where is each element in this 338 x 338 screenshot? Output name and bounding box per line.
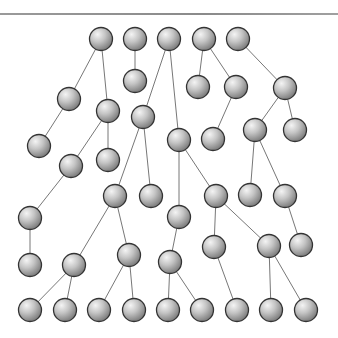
tree-node-20	[104, 185, 127, 208]
tree-node-8	[97, 100, 120, 123]
tree-node-6	[124, 70, 147, 93]
tree-node-40	[226, 299, 249, 322]
tree-node-38	[157, 299, 180, 322]
tree-node-30	[19, 254, 42, 277]
tree-node-16	[202, 128, 225, 151]
tree-node-27	[203, 236, 226, 259]
tree-node-24	[274, 185, 297, 208]
tree-node-5	[227, 28, 250, 51]
tree-node-26	[168, 206, 191, 229]
tree-node-37	[123, 299, 146, 322]
tree-node-17	[244, 119, 267, 142]
tree-node-12	[274, 77, 297, 100]
tree-node-31	[63, 254, 86, 277]
tree-node-22	[205, 185, 228, 208]
tree-node-1	[90, 28, 113, 51]
tree-node-4	[193, 28, 216, 51]
tree-node-15	[168, 129, 191, 152]
edge-3-9	[143, 39, 169, 117]
tree-node-33	[159, 251, 182, 274]
tree-node-39	[191, 299, 214, 322]
tree-node-13	[28, 135, 51, 158]
tree-node-34	[19, 299, 42, 322]
tree-node-21	[140, 185, 163, 208]
tree-node-35	[54, 299, 77, 322]
tree-node-42	[295, 299, 318, 322]
tree-node-11	[225, 76, 248, 99]
tree-node-3	[158, 28, 181, 51]
tree-node-18	[284, 119, 307, 142]
tree-node-41	[260, 299, 283, 322]
tree-node-36	[88, 299, 111, 322]
tree-node-9	[132, 106, 155, 129]
tree-node-29	[290, 234, 313, 257]
tree-node-23	[239, 184, 262, 207]
tree-node-32	[118, 244, 141, 267]
tree-node-25	[19, 207, 42, 230]
tree-node-2	[124, 28, 147, 51]
tree-node-10	[187, 76, 210, 99]
tree-forest-diagram	[0, 0, 338, 338]
tree-node-14	[97, 149, 120, 172]
nodes-layer	[19, 28, 318, 322]
edge-3-15	[169, 39, 179, 140]
tree-node-19	[60, 155, 83, 178]
tree-node-7	[58, 88, 81, 111]
tree-node-28	[258, 235, 281, 258]
